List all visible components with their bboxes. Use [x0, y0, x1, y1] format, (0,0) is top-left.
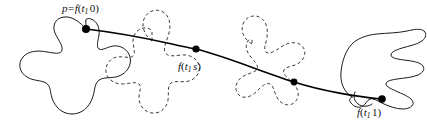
- blob-intermediate-2-outline: [236, 16, 305, 105]
- label-end-point: f(t11): [357, 107, 381, 120]
- label-middle-subscript: 1: [188, 65, 192, 74]
- label-start-subscript: 1: [85, 7, 89, 16]
- homotopy-figure: p=f(t10) f(t1s) f(t11): [0, 0, 427, 125]
- node-middle-dot: [192, 45, 199, 52]
- blob-start-outline: [20, 17, 131, 114]
- label-start-close-paren: ): [95, 2, 99, 14]
- label-middle-close-paren: ): [197, 60, 201, 72]
- node-end-dot: [378, 95, 386, 103]
- label-start-symbol: p: [62, 2, 68, 14]
- node-third-dot: [291, 79, 298, 86]
- node-start-dot: [82, 25, 90, 33]
- label-start-point: p=f(t10): [62, 3, 99, 16]
- label-middle-point: f(t1s): [178, 61, 201, 74]
- label-end-close-paren: ): [378, 106, 382, 118]
- label-end-subscript: 1: [367, 111, 371, 120]
- label-start-equals: =: [68, 2, 75, 14]
